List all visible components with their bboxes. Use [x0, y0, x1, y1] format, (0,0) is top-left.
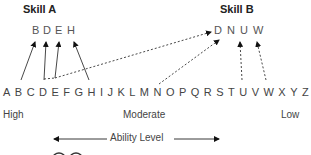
alphabet-letter: M: [140, 86, 149, 98]
skill-a-letter: D: [43, 24, 51, 36]
arrow-b-to-skill-a: [21, 42, 35, 80]
skill-b-letter: W: [253, 24, 263, 36]
level-moderate: Moderate: [123, 109, 165, 120]
alphabet-letter: P: [179, 86, 186, 98]
skill-a-letter: H: [67, 24, 75, 36]
skill-b-letter: D: [214, 24, 222, 36]
arrow-n-to-skill-b: [159, 40, 219, 84]
alphabet-letter: E: [51, 86, 58, 98]
alphabet-letter: X: [278, 86, 285, 98]
alphabet-letter: S: [216, 86, 223, 98]
alphabet-letter: B: [15, 86, 22, 98]
alphabet-letter: W: [263, 86, 273, 98]
skill-b-letter: U: [240, 24, 248, 36]
level-high: High: [3, 109, 24, 120]
skill-b-title: Skill B: [220, 3, 254, 15]
alphabet-letter: A: [3, 86, 10, 98]
alphabet-letter: Q: [191, 86, 200, 98]
alphabet-letter: G: [74, 86, 83, 98]
ability-level-label: Ability Level: [110, 132, 163, 143]
alphabet-letter: D: [39, 86, 47, 98]
alphabet-letter: R: [204, 86, 212, 98]
arrow-d-to-skill-a: [44, 42, 46, 80]
alphabet-letter: L: [129, 86, 135, 98]
alphabet-letter: H: [88, 86, 96, 98]
alphabet-letter: F: [63, 86, 70, 98]
alphabet-letter: T: [228, 86, 235, 98]
cutoff-shape-2: [70, 153, 82, 155]
alphabet-letter: C: [27, 86, 35, 98]
alphabet-row: A B C D E F G H I J K L M N O P Q R S T …: [3, 86, 309, 98]
skill-b-letter: N: [227, 24, 235, 36]
skill-a-letter: B: [32, 24, 39, 36]
skill-a-title: Skill A: [23, 3, 56, 15]
arrow-u-to-skill-b: [240, 42, 242, 80]
alphabet-letter: U: [239, 86, 247, 98]
alphabet-letter: O: [166, 86, 175, 98]
arrow-w-to-skill-b: [257, 42, 266, 80]
alphabet-letter: Y: [290, 86, 297, 98]
level-low: Low: [281, 109, 299, 120]
alphabet-letter: Z: [302, 86, 309, 98]
alphabet-letter: K: [117, 86, 124, 98]
alphabet-letter: I: [100, 86, 103, 98]
arrow-d-to-skill-b: [55, 32, 211, 78]
arrow-h-to-skill-a: [74, 42, 89, 80]
alphabet-letter: V: [252, 86, 259, 98]
alphabet-letter: J: [107, 86, 113, 98]
skill-a-letter: E: [55, 24, 62, 36]
arrow-e-to-skill-a: [55, 42, 59, 78]
cutoff-shape-1: [53, 153, 65, 155]
alphabet-letter: N: [153, 86, 161, 98]
